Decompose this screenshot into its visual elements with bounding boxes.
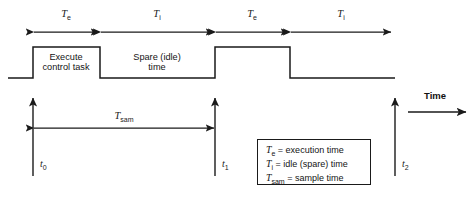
legend-text-ti: = idle (spare) time [273, 159, 348, 169]
interval-label-te-first: Te [61, 8, 71, 22]
execute-task-line1: Execute [43, 52, 90, 62]
marker-label-t1: t1 [222, 158, 229, 172]
interval-label-te-second: Te [247, 8, 257, 22]
spare-idle-label: Spare (idle) time [133, 52, 181, 73]
legend-row-ti: Ti = idle (spare) time [266, 158, 348, 171]
interval-label-ti-first: Ti [153, 8, 160, 22]
spare-idle-line2: time [133, 62, 181, 72]
legend-sym-tsam: Tsam [266, 172, 285, 183]
legend-row-tsam: Tsam = sample time [266, 172, 343, 185]
legend-sym-ti: Ti [266, 158, 273, 169]
execute-task-line2: control task [43, 62, 90, 72]
marker-label-t0: t0 [40, 158, 47, 172]
spare-idle-line1: Spare (idle) [133, 52, 181, 62]
legend-box: Te = execution time Ti = idle (spare) ti… [257, 139, 371, 185]
marker-label-t2: t2 [402, 158, 409, 172]
sample-interval-label: Tsam [114, 110, 133, 124]
legend-sym-te: Te [266, 144, 275, 155]
legend-text-te: = execution time [275, 145, 343, 155]
timing-diagram: Te Ti Te Ti Execute control task Spare (… [0, 0, 476, 200]
time-axis-label: Time [424, 90, 446, 101]
legend-row-te: Te = execution time [266, 144, 344, 157]
legend-text-tsam: = sample time [285, 173, 344, 183]
execute-task-label: Execute control task [43, 52, 90, 73]
interval-label-ti-second: Ti [337, 8, 344, 22]
